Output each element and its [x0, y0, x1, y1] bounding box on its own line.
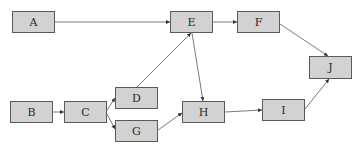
- node-a: A: [12, 11, 55, 33]
- edge-c-d: [107, 98, 115, 110]
- edge-d-e: [137, 33, 191, 87]
- node-i: I: [262, 99, 305, 121]
- edge-g-h: [158, 113, 182, 130]
- node-d: D: [115, 87, 158, 109]
- node-g: G: [115, 120, 158, 142]
- node-f: F: [237, 11, 280, 33]
- edge-h-i: [225, 110, 262, 112]
- node-h: H: [182, 101, 225, 123]
- edge-i-j: [305, 79, 329, 109]
- edge-f-j: [280, 24, 328, 56]
- node-b: B: [10, 101, 53, 123]
- node-c: C: [64, 101, 107, 123]
- edge-c-g: [107, 114, 115, 129]
- node-j: J: [309, 56, 352, 79]
- node-e: E: [170, 11, 213, 33]
- edge-e-h: [192, 33, 203, 101]
